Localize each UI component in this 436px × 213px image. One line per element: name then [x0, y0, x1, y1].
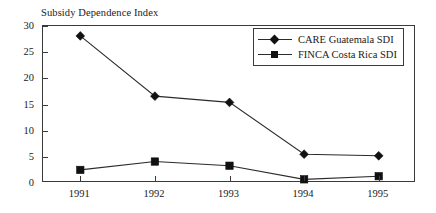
y-tick-label: 5: [8, 150, 34, 161]
y-tick-mark: [43, 78, 48, 79]
legend-item-finca: FINCA Costa Rica SDI: [258, 47, 397, 62]
x-tick-label: 1993: [218, 188, 239, 199]
legend-label-care: CARE Guatemala SDI: [292, 34, 394, 45]
x-tick-mark: [155, 176, 156, 181]
data-point-square: [77, 166, 84, 173]
x-tick-label: 1991: [69, 188, 90, 199]
y-tick-label: 30: [8, 20, 34, 31]
x-tick-mark: [80, 176, 81, 181]
x-tick-label: 1995: [367, 188, 388, 199]
x-tick-label: 1992: [143, 188, 164, 199]
y-tick-label: 25: [8, 46, 34, 57]
y-tick-label: 20: [8, 72, 34, 83]
x-tick-mark: [230, 176, 231, 181]
legend-item-care: CARE Guatemala SDI: [258, 32, 397, 47]
y-tick-mark: [43, 157, 48, 158]
legend-label-finca: FINCA Costa Rica SDI: [292, 49, 397, 60]
x-tick-mark: [304, 176, 305, 181]
data-point-square: [151, 158, 158, 165]
chart-legend: CARE Guatemala SDI FINCA Costa Rica SDI: [253, 28, 404, 66]
chart-title: Subsidy Dependence Index: [41, 7, 158, 18]
y-tick-mark: [43, 131, 48, 132]
y-tick-mark: [43, 105, 48, 106]
data-point-diamond: [300, 150, 309, 159]
x-tick-mark: [379, 176, 380, 181]
diamond-marker-icon: [258, 33, 292, 47]
y-tick-label: 10: [8, 124, 34, 135]
y-tick-mark: [43, 26, 48, 27]
data-point-diamond: [225, 98, 234, 107]
y-tick-mark: [43, 52, 48, 53]
data-point-diamond: [374, 151, 383, 160]
y-tick-label: 0: [8, 177, 34, 188]
data-point-square: [226, 162, 233, 169]
square-marker-icon: [258, 48, 292, 62]
y-tick-label: 15: [8, 98, 34, 109]
x-tick-label: 1994: [293, 188, 314, 199]
chart-page: Subsidy Dependence Index 051015202530 19…: [0, 0, 436, 213]
